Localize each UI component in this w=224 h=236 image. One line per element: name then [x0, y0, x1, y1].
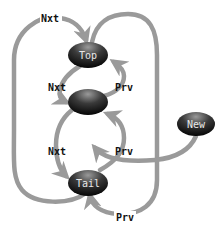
edge-middle-to-tail-nxt: [56, 110, 72, 176]
node-tail: Tail: [68, 170, 108, 196]
edge-label-tail-middle: Prv: [115, 146, 133, 157]
edge-new-to-middle: [95, 136, 196, 161]
node-new-label: New: [187, 119, 206, 130]
linked-list-diagram: Top Tail New Nxt Nxt Prv Nxt Prv Prv: [0, 0, 224, 236]
edge-label-top-middle: Nxt: [48, 82, 66, 93]
node-middle: [68, 89, 108, 115]
edge-label-top-tail: Prv: [116, 212, 134, 223]
node-top: Top: [68, 42, 108, 68]
node-new: New: [177, 112, 215, 136]
edge-label-tail-top: Nxt: [41, 13, 59, 24]
edge-label-middle-tail: Nxt: [48, 146, 66, 157]
node-top-label: Top: [79, 50, 97, 61]
node-tail-label: Tail: [76, 178, 100, 189]
edge-label-middle-top: Prv: [115, 82, 133, 93]
